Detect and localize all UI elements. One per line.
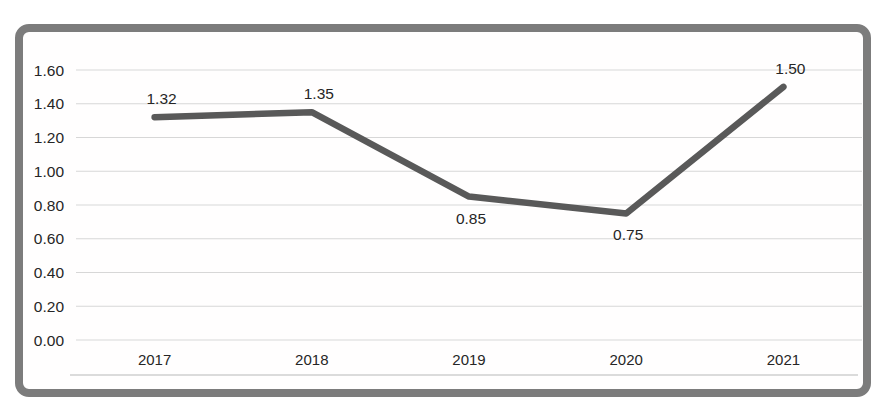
y-axis-tick-label: 1.00: [34, 163, 65, 180]
y-axis-tick-label: 1.40: [34, 95, 65, 112]
data-point-label: 0.85: [456, 210, 486, 227]
y-axis-tick-label: 0.60: [34, 230, 65, 247]
y-axis-tick-label: 0.20: [34, 298, 65, 315]
y-axis-tick-label: 1.20: [34, 129, 65, 146]
data-point-label: 1.35: [304, 85, 334, 102]
x-axis-tick-label: 2018: [295, 351, 328, 368]
x-axis-tick-label: 2020: [610, 351, 643, 368]
x-axis-tick-label: 2019: [452, 351, 485, 368]
y-axis-tick-label: 1.60: [34, 62, 65, 79]
data-line: [155, 87, 784, 214]
line-chart: 0.000.200.400.600.801.001.201.401.602017…: [0, 0, 885, 413]
data-point-label: 1.32: [147, 90, 177, 107]
x-axis-tick-label: 2017: [138, 351, 171, 368]
y-axis-tick-label: 0.00: [34, 332, 65, 349]
y-axis-tick-label: 0.40: [34, 264, 65, 281]
data-point-label: 1.50: [775, 60, 806, 77]
data-point-label: 0.75: [613, 226, 643, 243]
x-axis-tick-label: 2021: [767, 351, 800, 368]
y-axis-tick-label: 0.80: [34, 197, 65, 214]
